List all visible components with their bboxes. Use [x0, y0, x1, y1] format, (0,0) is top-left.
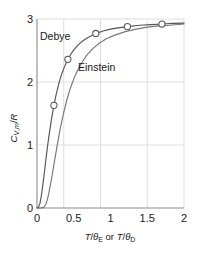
x-tick-0: 0	[34, 212, 40, 224]
data-marker	[51, 102, 57, 108]
x-tick-0p5: 0.5	[66, 212, 81, 224]
y-tick-2: 2	[27, 76, 33, 88]
plot-background	[0, 0, 199, 255]
data-marker	[93, 30, 99, 36]
chart-figure: 3 2 1 0 0 0.5 1 1.5 2 CV,m/R T/θE or T/θ…	[0, 0, 199, 255]
einstein-label: Einstein	[78, 61, 116, 73]
x-axis-title: T/θE or T/θD	[85, 231, 136, 243]
x-tick-2: 2	[181, 212, 187, 224]
y-tick-1: 1	[27, 139, 33, 151]
svg-text:T/θE or T/θD: T/θE or T/θD	[85, 231, 136, 243]
x-tick-1: 1	[107, 212, 113, 224]
debye-label: Debye	[40, 30, 71, 42]
data-marker	[65, 56, 71, 62]
y-tick-0: 0	[27, 202, 33, 214]
x-tick-1p5: 1.5	[140, 212, 155, 224]
y-tick-3: 3	[27, 13, 33, 25]
data-marker	[159, 21, 165, 27]
heat-capacity-plot: 3 2 1 0 0 0.5 1 1.5 2 CV,m/R T/θE or T/θ…	[0, 0, 199, 255]
data-marker	[124, 23, 130, 29]
